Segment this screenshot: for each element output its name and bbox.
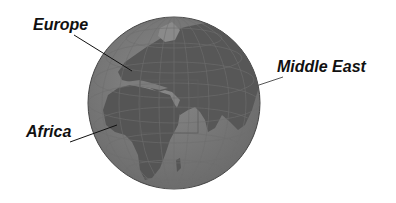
label-middle-east: Middle East <box>277 59 366 75</box>
leader-line-middle-east <box>256 77 283 86</box>
label-africa: Africa <box>26 124 71 140</box>
label-europe: Europe <box>33 17 88 33</box>
